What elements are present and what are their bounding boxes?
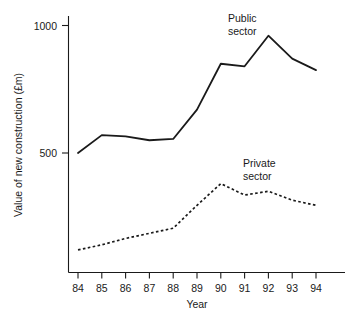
x-tick-label-94: 94 — [310, 282, 322, 294]
series-line-private-sector — [78, 184, 316, 250]
x-tick-label-85: 85 — [96, 282, 108, 294]
x-tick-labels: 84 85 86 87 88 89 90 91 92 93 94 — [72, 282, 322, 294]
series-line-public-sector — [78, 36, 316, 153]
private-label-line1: Private — [243, 157, 276, 169]
y-tick-label-500: 500 — [39, 147, 57, 159]
line-chart: 1000 500 84 85 86 87 88 89 90 91 92 9 — [0, 0, 360, 315]
y-tick-label-1000: 1000 — [34, 20, 58, 32]
y-axis-title: Value of new construction (£m) — [12, 73, 24, 217]
x-tick-label-93: 93 — [286, 282, 298, 294]
x-tick-label-87: 87 — [144, 282, 156, 294]
public-label-line2: sector — [228, 25, 257, 37]
x-tick-label-86: 86 — [120, 282, 132, 294]
chart-canvas: 1000 500 84 85 86 87 88 89 90 91 92 9 — [0, 0, 360, 315]
annotation-private-sector: Private sector — [243, 157, 276, 182]
x-axis-title: Year — [186, 298, 208, 310]
x-tick-label-92: 92 — [263, 282, 275, 294]
private-label-line2: sector — [243, 170, 272, 182]
x-tick-label-84: 84 — [72, 282, 84, 294]
x-tick-label-90: 90 — [215, 282, 227, 294]
x-tick-label-89: 89 — [191, 282, 203, 294]
annotation-public-sector: Public sector — [228, 12, 257, 37]
x-tick-label-91: 91 — [239, 282, 251, 294]
x-tick-marks — [78, 273, 316, 279]
x-tick-label-88: 88 — [167, 282, 179, 294]
public-label-line1: Public — [228, 12, 257, 24]
